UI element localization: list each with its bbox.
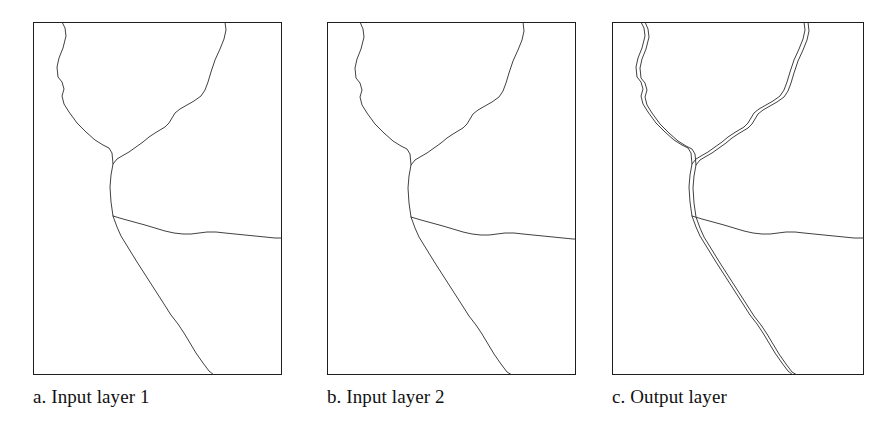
polyline-branch-upper-right-b: [411, 22, 524, 165]
polyline-branch-upper-right-a: [113, 22, 226, 164]
polyline-overlay-layer1-main-c: [636, 22, 793, 375]
polyline-overlay-layer1-branch-lower-c: [692, 216, 864, 238]
polyline-main-a: [57, 22, 214, 375]
panel-input-layer-2: [327, 22, 576, 375]
map-canvas-b: [327, 22, 576, 375]
caption-panel-a: a. Input layer 1: [33, 386, 150, 408]
map-canvas-c: [612, 22, 864, 375]
panel-output-layer: [612, 22, 864, 375]
polyline-main-b: [355, 22, 512, 375]
map-canvas-a: [33, 22, 282, 375]
caption-panel-c: c. Output layer: [612, 386, 727, 408]
panel-input-layer-1: [33, 22, 282, 375]
caption-panel-b: b. Input layer 2: [327, 386, 445, 408]
polyline-overlay-layer2-branch-upper-c: [696, 22, 809, 165]
polyline-branch-lower-right-a: [113, 216, 282, 238]
figure-map-overlay: a. Input layer 1 b. Input layer 2 c. Out…: [0, 0, 895, 427]
polyline-branch-lower-right-b: [411, 217, 576, 239]
polyline-overlay-layer2-main-c: [640, 22, 797, 375]
polyline-overlay-layer1-branch-upper-c: [692, 22, 805, 164]
